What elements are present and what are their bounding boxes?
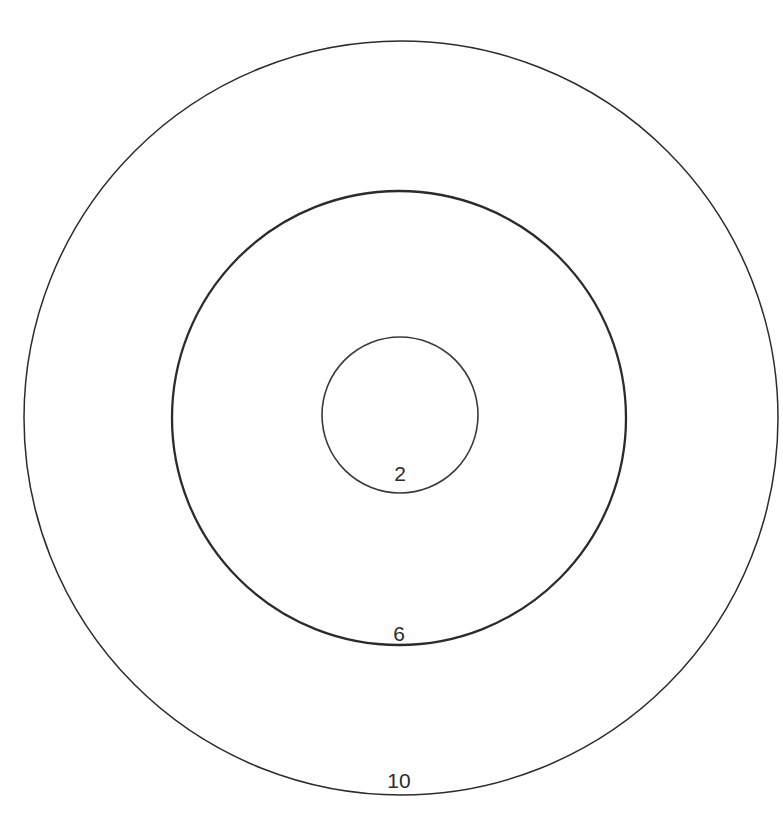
outer-circle-label: 10 <box>387 769 410 792</box>
concentric-circles-figure: 10 6 2 <box>0 0 783 824</box>
figure-background <box>0 0 783 824</box>
inner-circle-label: 2 <box>394 462 406 485</box>
circles-diagram-canvas: 10 6 2 <box>0 0 783 824</box>
middle-circle-label: 6 <box>393 622 405 645</box>
